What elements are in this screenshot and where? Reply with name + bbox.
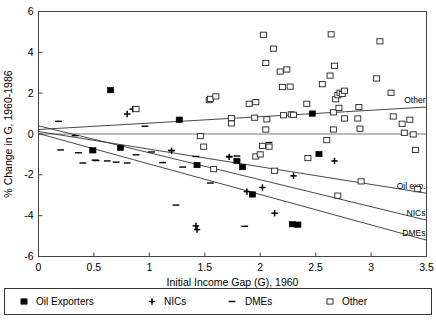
marker-open-square xyxy=(264,117,270,122)
fit-line-dmes xyxy=(39,134,427,241)
marker-open-square xyxy=(388,90,394,95)
x-axis-title: Initial Income Gap (G), 1960 xyxy=(167,276,299,288)
fit-line-nics xyxy=(39,126,427,220)
marker-open-square xyxy=(228,115,234,120)
fit-line-label-3: DMEs xyxy=(402,228,425,238)
marker-open-square xyxy=(357,126,363,131)
y-tick-label-6: -6 xyxy=(24,250,33,262)
x-tick-label-6: 3 xyxy=(368,261,374,273)
marker-open-square xyxy=(305,155,311,160)
marker-filled-square xyxy=(194,162,200,167)
marker-open-square xyxy=(374,76,380,81)
marker-open-square xyxy=(197,133,203,138)
y-tick-label-5: -4 xyxy=(24,209,33,221)
marker-open-square xyxy=(211,167,217,172)
marker-open-square xyxy=(277,69,283,74)
x-tick-label-2: 1 xyxy=(146,261,152,273)
marker-open-square xyxy=(287,84,293,89)
marker-open-square xyxy=(331,63,337,68)
scatter-chart-figure: 6420-2-4-600.511.522.533.5Initial Income… xyxy=(0,0,436,322)
y-tick-label-4: -2 xyxy=(24,168,33,180)
marker-open-square xyxy=(355,116,361,121)
x-tick-label-4: 2 xyxy=(257,261,263,273)
marker-open-square xyxy=(401,130,407,135)
marker-open-square xyxy=(356,104,362,109)
marker-filled-square xyxy=(239,164,245,169)
marker-open-square xyxy=(263,60,269,65)
cropped-top-strip xyxy=(0,0,436,5)
marker-open-square xyxy=(324,138,330,143)
marker-open-square xyxy=(341,88,347,93)
marker-open-square xyxy=(328,32,334,37)
y-tick-label-1: 4 xyxy=(28,46,34,58)
x-tick-label-7: 3.5 xyxy=(419,261,434,273)
marker-open-square xyxy=(319,82,325,87)
marker-filled-square xyxy=(309,111,315,116)
fit-line-label-2: NICs xyxy=(407,208,426,218)
marker-open-square xyxy=(246,101,252,106)
fit-line-label-0: Other xyxy=(404,95,425,105)
marker-open-square xyxy=(272,168,278,173)
legend-label-0: Oil Exporters xyxy=(36,296,94,307)
legend-label-3: Other xyxy=(342,296,368,307)
marker-open-square xyxy=(336,105,342,110)
marker-open-square xyxy=(327,299,333,304)
marker-open-square xyxy=(284,67,290,72)
marker-open-square xyxy=(201,144,207,149)
marker-open-square xyxy=(266,144,272,149)
marker-filled-square xyxy=(295,222,301,227)
y-axis-title: % Change in G, 1960-1986 xyxy=(2,70,14,197)
marker-open-square xyxy=(259,143,265,148)
marker-open-square xyxy=(253,100,259,105)
fit-line-label-1: Oil exp. xyxy=(397,181,426,191)
marker-open-square xyxy=(133,106,139,111)
marker-open-square xyxy=(279,84,285,89)
y-tick-label-3: 0 xyxy=(28,128,34,140)
marker-open-square xyxy=(304,101,310,106)
marker-filled-square xyxy=(107,87,113,92)
x-tick-label-5: 2.5 xyxy=(308,261,323,273)
marker-filled-square xyxy=(117,145,123,150)
legend-label-1: NICs xyxy=(164,296,186,307)
marker-open-square xyxy=(410,132,416,137)
y-tick-label-0: 6 xyxy=(28,5,34,17)
marker-open-square xyxy=(290,112,296,117)
marker-open-square xyxy=(399,121,405,126)
y-tick-label-2: 2 xyxy=(28,87,34,99)
marker-open-square xyxy=(341,116,347,121)
series-dmes xyxy=(55,121,272,226)
marker-open-square xyxy=(407,117,413,122)
marker-open-square xyxy=(412,147,418,152)
marker-filled-square xyxy=(249,192,255,197)
marker-open-square xyxy=(228,121,234,126)
marker-open-square xyxy=(377,39,383,44)
marker-open-square xyxy=(390,114,396,119)
marker-open-square xyxy=(330,127,336,132)
marker-open-square xyxy=(415,187,421,192)
marker-open-square xyxy=(327,73,333,78)
marker-open-square xyxy=(213,94,219,99)
marker-open-square xyxy=(257,152,263,157)
x-tick-label-0: 0 xyxy=(36,261,42,273)
marker-open-square xyxy=(261,32,267,37)
fit-line-oil-exp xyxy=(39,132,427,194)
chart-canvas: 6420-2-4-600.511.522.533.5Initial Income… xyxy=(0,0,436,322)
marker-open-square xyxy=(280,113,286,118)
x-tick-label-3: 1.5 xyxy=(197,261,212,273)
x-tick-label-1: 0.5 xyxy=(87,261,102,273)
marker-filled-square xyxy=(176,117,182,122)
marker-open-square xyxy=(252,115,258,120)
marker-open-square xyxy=(271,46,277,51)
series-other xyxy=(133,32,421,198)
marker-filled-square xyxy=(234,158,240,163)
legend-label-2: DMEs xyxy=(245,296,272,307)
marker-open-square xyxy=(358,179,364,184)
marker-filled-square xyxy=(21,299,27,304)
marker-open-square xyxy=(263,127,269,132)
marker-open-square xyxy=(335,193,341,198)
marker-filled-square xyxy=(316,151,322,156)
